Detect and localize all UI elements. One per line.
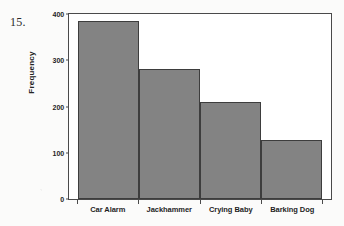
y-axis-tick-mark	[66, 152, 69, 153]
y-axis-tick-mark	[66, 14, 69, 15]
figure-page: 15. Frequency 0100200300400 Car AlarmJac…	[0, 0, 344, 226]
bar-series	[78, 14, 322, 199]
bar-slot	[139, 14, 200, 199]
y-axis-tick: 400	[53, 11, 69, 18]
y-axis-tick-mark	[66, 106, 69, 107]
x-axis-tick-marks	[77, 200, 323, 204]
x-axis-tick-mark	[261, 200, 262, 204]
x-axis-tick-label: Jackhammer	[139, 205, 201, 214]
x-axis-tick-label: Crying Baby	[200, 205, 262, 214]
x-axis-tick-mark	[322, 200, 323, 204]
x-axis-tick-label: Car Alarm	[77, 205, 139, 214]
item-number: 15.	[10, 15, 26, 30]
bar-slot	[78, 14, 139, 199]
x-axis-tick-mark	[200, 200, 201, 204]
x-axis: Car AlarmJackhammerCrying BabyBarking Do…	[68, 200, 332, 226]
y-axis-tick: 100	[53, 149, 69, 156]
y-axis-tick-label: 100	[53, 149, 66, 156]
plot-area: 0100200300400	[68, 13, 332, 200]
bar-slot	[200, 14, 261, 199]
bar	[139, 69, 200, 199]
y-axis-tick: 200	[53, 103, 69, 110]
y-axis-tick-label: 400	[53, 11, 66, 18]
y-axis-tick: 300	[53, 57, 69, 64]
bar	[261, 140, 322, 199]
y-axis-tick-label: 300	[53, 57, 66, 64]
y-axis-tick-label: 200	[53, 103, 66, 110]
bar	[78, 21, 139, 199]
x-axis-tick-labels: Car AlarmJackhammerCrying BabyBarking Do…	[77, 205, 323, 214]
bar-slot	[261, 14, 322, 199]
y-axis-tick-mark	[66, 60, 69, 61]
x-axis-tick-mark	[138, 200, 139, 204]
x-axis-tick-mark	[77, 200, 78, 204]
y-axis-title: Frequency	[27, 33, 36, 113]
x-axis-tick-label: Barking Dog	[262, 205, 324, 214]
bar	[200, 102, 261, 199]
